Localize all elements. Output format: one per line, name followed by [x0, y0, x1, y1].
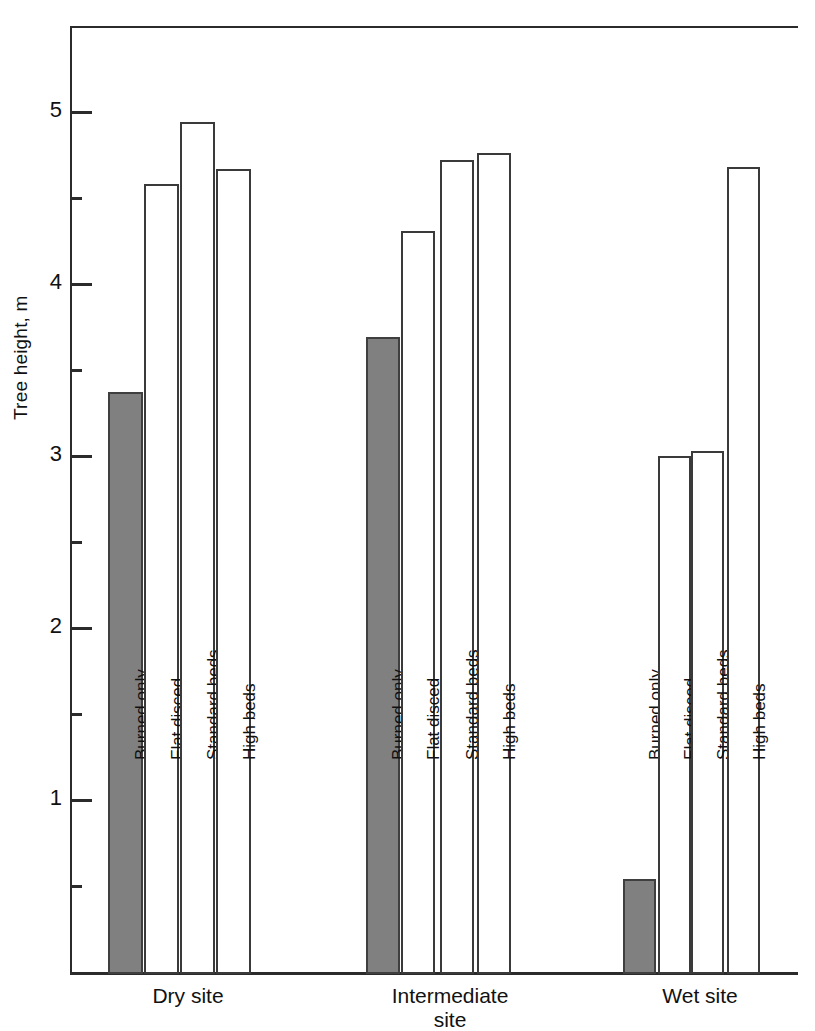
- bar-dry-flat-disced: [144, 184, 179, 974]
- bar-wet-burned-only: [623, 879, 656, 974]
- bar-wet-flat-disced: [658, 456, 691, 974]
- bar-dry-burned-only: [108, 392, 143, 974]
- category-label-wet: Wet site: [590, 984, 810, 1008]
- category-label-line2: site: [340, 1008, 560, 1031]
- bar-intermediate-burned-only: [366, 337, 400, 974]
- category-label-line1: Dry site: [152, 984, 223, 1007]
- bar-dry-standard-beds: [180, 122, 215, 974]
- bar-wet-standard-beds: [691, 451, 724, 974]
- category-label-intermediate: Intermediatesite: [340, 984, 560, 1031]
- category-label-dry: Dry site: [78, 984, 298, 1008]
- bar-series-layer: Burned onlyFlat discedStandard bedsHigh …: [0, 0, 815, 1031]
- bar-wet-high-beds: [727, 167, 760, 974]
- category-label-line1: Intermediate: [392, 984, 509, 1007]
- bar-intermediate-high-beds: [477, 153, 511, 974]
- chart-figure: Tree height, m 12345 Burned onlyFlat dis…: [0, 0, 815, 1031]
- category-label-line1: Wet site: [662, 984, 737, 1007]
- bar-dry-high-beds: [216, 169, 251, 974]
- bar-intermediate-flat-disced: [401, 231, 435, 974]
- bar-intermediate-standard-beds: [440, 160, 474, 974]
